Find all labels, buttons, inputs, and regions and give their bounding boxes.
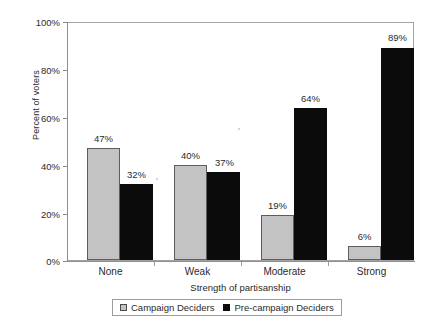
bar-moderate-campaign-deciders bbox=[261, 215, 294, 260]
x-tick-label-strong: Strong bbox=[328, 266, 415, 277]
bar-strong-pre-campaign-deciders bbox=[381, 48, 414, 260]
x-tick-label-moderate: Moderate bbox=[241, 266, 328, 277]
bar-value-none-pre-campaign-deciders: 32% bbox=[116, 170, 157, 180]
plot-area: 47% 32% 40% 37% 19% 64% 6% 89% bbox=[67, 22, 414, 261]
legend-entry-pre-campaign-deciders: Pre-campaign Deciders bbox=[223, 302, 333, 313]
legend-label-pre-campaign-deciders: Pre-campaign Deciders bbox=[234, 302, 333, 313]
black-square-icon bbox=[223, 304, 230, 311]
y-axis-title: Percent of voters bbox=[31, 25, 41, 185]
gray-square-icon bbox=[120, 304, 127, 311]
chart-legend: Campaign Deciders Pre-campaign Deciders bbox=[112, 299, 342, 316]
x-tick-label-none: None bbox=[67, 266, 154, 277]
y-tick-label-40: 40% bbox=[24, 162, 60, 172]
x-axis-title: Strength of partisanship bbox=[67, 282, 414, 293]
y-tick-label-100: 100% bbox=[24, 18, 60, 28]
y-tick-label-0: 0% bbox=[24, 257, 60, 267]
bar-value-moderate-pre-campaign-deciders: 64% bbox=[290, 94, 331, 104]
bar-value-moderate-campaign-deciders: 19% bbox=[257, 201, 298, 211]
bar-moderate-pre-campaign-deciders bbox=[294, 108, 327, 260]
y-tick-label-80: 80% bbox=[24, 66, 60, 76]
bar-chart: Percent of voters 100% 80% 60% 40% 20% 0… bbox=[0, 0, 434, 329]
bar-value-strong-campaign-deciders: 6% bbox=[344, 232, 385, 242]
y-tick-label-20: 20% bbox=[24, 210, 60, 220]
scan-speckle bbox=[156, 178, 158, 180]
bar-none-pre-campaign-deciders bbox=[120, 184, 153, 260]
y-tick-label-60: 60% bbox=[24, 114, 60, 124]
bar-none-campaign-deciders bbox=[87, 148, 120, 260]
bar-strong-campaign-deciders bbox=[348, 246, 381, 260]
bar-weak-campaign-deciders bbox=[174, 165, 207, 260]
x-tick-label-weak: Weak bbox=[154, 266, 241, 277]
legend-label-campaign-deciders: Campaign Deciders bbox=[131, 302, 214, 313]
bar-value-none-campaign-deciders: 47% bbox=[83, 134, 124, 144]
scan-speckle bbox=[238, 128, 240, 130]
bar-value-weak-pre-campaign-deciders: 37% bbox=[204, 158, 245, 168]
y-axis-line bbox=[67, 22, 68, 262]
bar-weak-pre-campaign-deciders bbox=[207, 172, 240, 260]
legend-entry-campaign-deciders: Campaign Deciders bbox=[120, 302, 214, 313]
bar-value-strong-pre-campaign-deciders: 89% bbox=[377, 33, 418, 43]
